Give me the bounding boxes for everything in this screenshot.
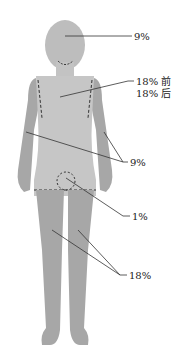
torso-shape: [34, 76, 96, 196]
label-trunk-front: 18% 前: [136, 76, 171, 87]
left-leg-shape: [36, 190, 64, 345]
body-figure: [0, 0, 183, 350]
label-arms: 9%: [130, 157, 146, 168]
label-genitals: 1%: [132, 211, 148, 222]
label-trunk-back: 18% 后: [136, 88, 171, 99]
right-leg-shape: [68, 190, 94, 345]
label-head: 9%: [134, 31, 150, 42]
label-legs: 18%: [129, 270, 151, 281]
